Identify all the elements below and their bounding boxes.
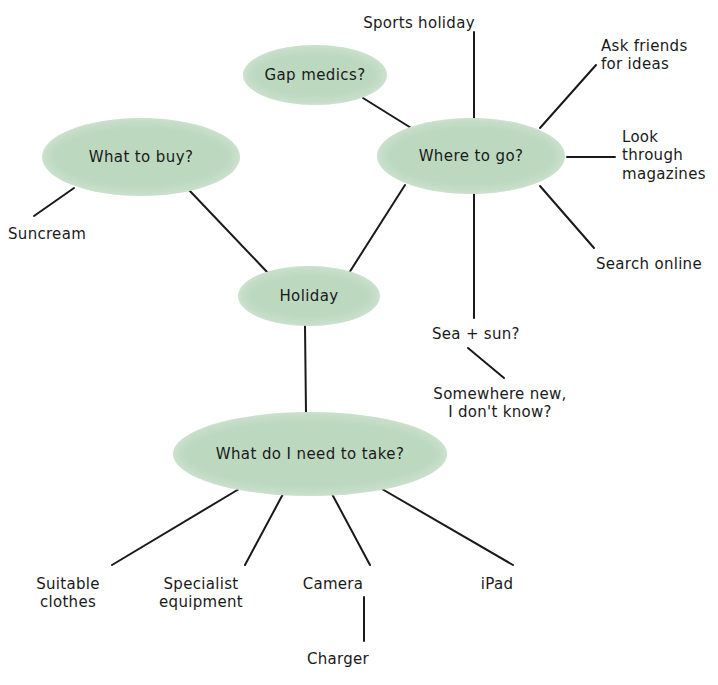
edge-holiday-whereto	[349, 185, 405, 273]
edge-holiday-whatbuy	[189, 190, 268, 273]
leaf-label-suitable[interactable]: Suitable clothes	[36, 575, 100, 612]
edge-needtake-suitable	[112, 489, 239, 565]
leaf-label-suncream[interactable]: Suncream	[8, 225, 86, 243]
leaf-label-searchonline[interactable]: Search online	[596, 255, 702, 273]
edge-whereto-search	[540, 186, 594, 248]
node-label-whereto: Where to go?	[419, 148, 524, 165]
leaf-label-charger[interactable]: Charger	[307, 650, 369, 668]
node-whatbuy[interactable]: What to buy?	[42, 118, 240, 196]
edge-needtake-camera	[332, 494, 370, 565]
mind-map-canvas: HolidayWhat to buy?Gap medics?Where to g…	[0, 0, 718, 685]
node-label-holiday: Holiday	[279, 288, 338, 305]
edge-seasun-somewhere	[468, 348, 504, 378]
leaf-label-specialist[interactable]: Specialist equipment	[159, 575, 243, 612]
leaf-label-seasun[interactable]: Sea + sun?	[432, 325, 520, 343]
leaf-label-ipad[interactable]: iPad	[481, 575, 513, 593]
node-label-needtake: What do I need to take?	[216, 446, 405, 463]
edge-whatbuy-suncream	[34, 188, 74, 216]
edge-needtake-specialist	[245, 494, 283, 565]
leaf-label-askfriends[interactable]: Ask friends for ideas	[601, 37, 688, 74]
leaf-label-camera[interactable]: Camera	[303, 575, 364, 593]
node-label-gapmed: Gap medics?	[264, 67, 365, 84]
edge-whereto-askfriends	[540, 65, 596, 128]
node-label-whatbuy: What to buy?	[89, 149, 194, 166]
edge-needtake-ipad	[382, 489, 513, 565]
edge-gapmed-whereto	[363, 98, 416, 131]
node-needtake[interactable]: What do I need to take?	[173, 412, 447, 496]
leaf-label-sportsholiday[interactable]: Sports holiday	[363, 14, 475, 32]
node-holiday[interactable]: Holiday	[238, 266, 380, 326]
leaf-label-lookthrough[interactable]: Look through magazines	[622, 128, 718, 183]
leaf-label-somewhere[interactable]: Somewhere new, I don't know?	[433, 385, 566, 422]
edge-holiday-needtake	[305, 326, 306, 413]
node-whereto[interactable]: Where to go?	[377, 118, 565, 194]
node-gapmed[interactable]: Gap medics?	[243, 45, 387, 105]
